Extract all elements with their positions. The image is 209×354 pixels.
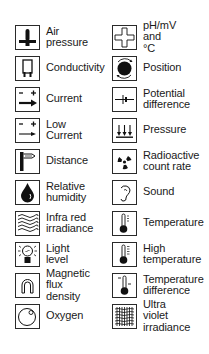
legend-item-infrared: Infra red irradiance — [15, 209, 93, 237]
legend-label: Magnetic flux density — [46, 268, 90, 303]
legend-item-temperature: Temperature — [112, 209, 204, 237]
legend-label: Position — [143, 62, 181, 74]
legend-item-low-current: Low Current — [15, 116, 82, 144]
legend-item-pressure: Pressure — [112, 116, 186, 144]
legend-item-distance: Distance — [15, 147, 88, 175]
legend-item-potential-difference: Potential difference — [112, 85, 190, 113]
legend-label: Relative humidity — [46, 181, 86, 204]
legend-item-ultraviolet: Ultra violet irradiance — [112, 302, 190, 330]
pressure-arrows-icon — [112, 118, 137, 143]
humidity-drop-icon — [15, 180, 40, 205]
legend-label: Light level — [46, 243, 69, 266]
legend-item-temperature-difference: Temperature difference — [112, 271, 204, 299]
ear-icon — [112, 180, 137, 205]
legend-label: Potential difference — [143, 88, 190, 111]
distance-icon — [15, 149, 40, 174]
legend-label: Current — [46, 93, 82, 105]
legend-item-radioactive: Radioactive count rate — [112, 147, 199, 175]
oxygen-icon — [15, 304, 40, 329]
legend-label: Distance — [46, 155, 88, 167]
legend-label: Radioactive count rate — [143, 150, 199, 173]
magnet-icon — [15, 273, 40, 298]
potential-difference-icon — [112, 87, 137, 112]
legend-item-relative-humidity: Relative humidity — [15, 178, 86, 206]
legend-label: Low Current — [46, 119, 82, 142]
legend-item-conductivity: Conductivity — [15, 54, 105, 82]
thermometer-icon — [112, 211, 137, 236]
ultraviolet-icon — [112, 304, 137, 329]
legend-label: Conductivity — [46, 62, 105, 74]
legend-label: Infra red irradiance — [46, 212, 93, 235]
legend-label: pH/mV and °C — [143, 20, 176, 55]
legend-item-light-level: Light level — [15, 240, 69, 268]
legend-label: Sound — [143, 186, 174, 198]
radioactive-icon — [112, 149, 137, 174]
legend-label: High temperature — [143, 243, 201, 266]
legend-item-ph: pH/mV and °C — [112, 23, 176, 51]
legend-label: Temperature — [143, 217, 204, 229]
legend-item-magnetic-flux: Magnetic flux density — [15, 271, 90, 299]
legend-label: Temperature difference — [143, 274, 204, 297]
legend-label: Oxygen — [46, 310, 83, 322]
light-bulb-icon — [15, 242, 40, 267]
legend-item-current: Current — [15, 85, 82, 113]
current-icon — [15, 87, 40, 112]
legend-item-high-temperature: High temperature — [112, 240, 201, 268]
conductivity-icon — [15, 56, 40, 81]
position-icon — [112, 56, 137, 81]
low-current-icon — [15, 118, 40, 143]
sensor-icon-legend: Air pressure Conductivity Current Low Cu… — [0, 0, 209, 354]
high-temperature-icon — [112, 242, 137, 267]
legend-item-oxygen: Oxygen — [15, 302, 83, 330]
temperature-difference-icon — [112, 273, 137, 298]
infrared-waves-icon — [15, 211, 40, 236]
air-pressure-icon — [15, 25, 40, 50]
legend-label: Air pressure — [46, 26, 88, 49]
ph-cross-icon — [112, 25, 137, 50]
legend-label: Ultra violet irradiance — [143, 299, 190, 334]
legend-item-sound: Sound — [112, 178, 174, 206]
legend-item-air-pressure: Air pressure — [15, 23, 88, 51]
legend-item-position: Position — [112, 54, 181, 82]
legend-label: Pressure — [143, 124, 186, 136]
